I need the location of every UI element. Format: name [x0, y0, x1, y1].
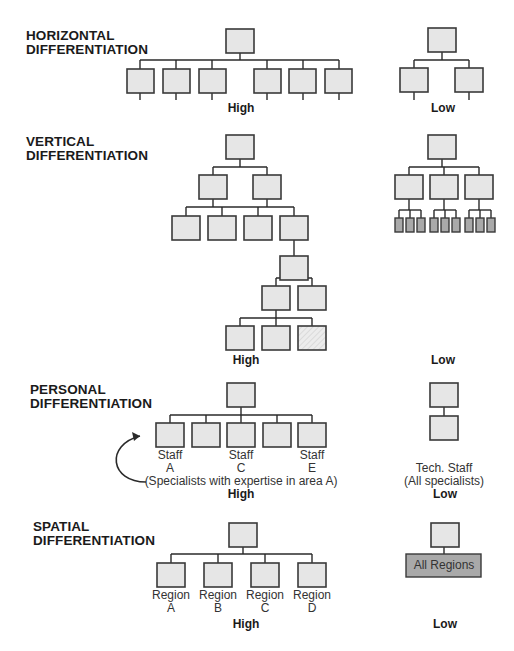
org-unit-box [172, 216, 200, 240]
org-unit-box [428, 28, 456, 52]
all-regions-label: All Regions [414, 559, 475, 572]
org-unit-box-dark [441, 218, 449, 232]
org-unit-box [455, 68, 483, 92]
org-unit-box [226, 135, 254, 159]
org-unit-box [244, 216, 272, 240]
org-unit-box [263, 423, 291, 447]
org-unit-box [430, 175, 458, 199]
tech-staff-note: Tech. Staff (All specialists) [404, 462, 484, 488]
staff-c-label: Staff C [229, 449, 253, 475]
section-title-spatial: SPATIAL DIFFERENTIATION [33, 520, 155, 548]
org-unit-box-dark [465, 218, 473, 232]
org-unit-box [204, 563, 232, 587]
org-unit-box [157, 563, 185, 587]
org-unit-box [280, 256, 308, 280]
arrowhead-icon [132, 432, 140, 441]
region-a-label: Region A [152, 589, 190, 615]
personal-high-label: High [228, 487, 255, 501]
curved-arrow-icon [116, 436, 146, 482]
org-unit-box [192, 423, 220, 447]
org-unit-box [430, 416, 458, 440]
org-unit-box [431, 523, 459, 547]
specialists-note: (Specialists with expertise in area A) [145, 475, 338, 488]
org-unit-box [262, 286, 290, 310]
region-b-label: Region B [199, 589, 237, 615]
org-unit-box-dark [476, 218, 484, 232]
region-d-label: Region D [293, 589, 331, 615]
org-unit-box [199, 69, 226, 93]
org-unit-box [280, 216, 308, 240]
vertical-high-label: High [233, 353, 260, 367]
org-unit-box [298, 423, 326, 447]
org-unit-box [208, 216, 236, 240]
org-unit-box [395, 175, 423, 199]
org-unit-box [298, 286, 326, 310]
horizontal-low-label: Low [431, 101, 455, 115]
org-unit-box-dark [430, 218, 438, 232]
section-title-vertical: VERTICAL DIFFERENTIATION [26, 135, 148, 163]
section-title-personal: PERSONAL DIFFERENTIATION [30, 383, 152, 411]
org-unit-box [465, 175, 493, 199]
org-unit-box-dark [417, 218, 425, 232]
org-unit-box [325, 69, 352, 93]
org-unit-box [163, 69, 190, 93]
org-unit-box [227, 383, 255, 407]
spatial-low-label: Low [433, 617, 457, 631]
org-unit-box-hatched [298, 326, 326, 350]
staff-e-label: Staff E [300, 449, 324, 475]
org-unit-box [199, 175, 227, 199]
org-unit-box [289, 69, 316, 93]
org-unit-box [156, 423, 184, 447]
org-unit-box [298, 563, 326, 587]
org-unit-box-dark [406, 218, 414, 232]
org-unit-box [253, 175, 281, 199]
org-unit-box [400, 68, 428, 92]
org-unit-box [428, 135, 456, 159]
org-unit-box [254, 69, 281, 93]
org-unit-box [226, 29, 254, 53]
staff-a-label: Staff A [158, 449, 182, 475]
section-title-horizontal: HORIZONTAL DIFFERENTIATION [26, 29, 148, 57]
org-unit-box-dark [395, 218, 403, 232]
org-unit-box [229, 523, 257, 547]
differentiation-diagram: HORIZONTAL DIFFERENTIATION VERTICAL DIFF… [0, 0, 514, 651]
vertical-low-label: Low [431, 353, 455, 367]
org-unit-box [262, 326, 290, 350]
org-unit-box [251, 563, 279, 587]
personal-low-label: Low [433, 487, 457, 501]
org-unit-box-dark [452, 218, 460, 232]
diagram-canvas [0, 0, 514, 651]
region-c-label: Region C [246, 589, 284, 615]
org-unit-box [227, 423, 255, 447]
org-unit-box [226, 326, 254, 350]
org-unit-box [430, 383, 458, 407]
org-unit-box-dark [487, 218, 495, 232]
org-unit-box [127, 69, 154, 93]
horizontal-high-label: High [228, 101, 255, 115]
spatial-high-label: High [233, 617, 260, 631]
